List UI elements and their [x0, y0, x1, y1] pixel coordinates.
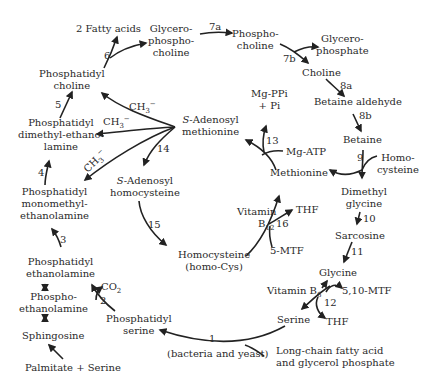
node-phosphatidylmonomethyl: Phosphatidyl monomethyl- ethanolamine — [20, 186, 89, 222]
node-bacteria-yeast: (bacteria and yeast) — [167, 348, 268, 360]
step-12: 12 — [324, 297, 337, 309]
node-line: Glycero- — [148, 23, 194, 35]
step-4: 4 — [38, 167, 44, 179]
step-6: 6 — [104, 50, 110, 62]
node-line: Homo- — [377, 152, 419, 164]
node-sarcosine: Sarcosine — [335, 230, 385, 242]
node-line: Phosphatidyl — [106, 313, 172, 325]
step-8b: 8b — [359, 110, 372, 122]
node-glycerophosphate: Glycero- phosphate — [316, 33, 369, 57]
node-line: Phospho- — [232, 28, 279, 40]
node-mg-ppi: Mg-PPi + Pi — [251, 88, 288, 112]
node-line: ethanolamine — [26, 268, 95, 280]
node-line: monomethyl- — [20, 198, 89, 210]
node-line: Vitamin — [237, 206, 276, 218]
node-palmitate-serine: Palmitate + Serine — [25, 362, 121, 374]
label-ch3-2: CH3− — [103, 113, 130, 132]
step-7b: 7b — [283, 53, 296, 65]
node-line: Long-chain fatty acid — [276, 345, 395, 357]
node-line: B12 — [237, 218, 276, 234]
node-line: phospho- — [148, 35, 194, 47]
step-14: 14 — [157, 143, 170, 155]
subscript: 3 — [145, 107, 149, 115]
node-5-mtf: 5-MTF — [270, 245, 304, 257]
step-8a: 8a — [340, 80, 352, 92]
node-homocysteine-center: Homocysteine (homo-Cys) — [178, 249, 250, 273]
node-sphingosine: Sphingosine — [22, 330, 84, 342]
node-line: serine — [106, 325, 172, 337]
node-line: phosphate — [316, 45, 369, 57]
node-glycerophosphocholine: Glycero- phospho- choline — [148, 23, 194, 59]
node-line: S-Adenosyl — [110, 175, 180, 187]
node-text: Vitamin B — [267, 285, 317, 296]
subscript: 6 — [317, 291, 321, 299]
step-15: 15 — [148, 219, 161, 231]
node-phosphatidylethanolamine: Phosphatidyl ethanolamine — [26, 256, 95, 280]
node-text: S — [117, 175, 124, 186]
node-line: Phosphatidyl — [39, 68, 105, 80]
node-line: S-Adenosyl — [182, 114, 239, 126]
node-fatty-acids: 2 Fatty acids — [76, 23, 141, 35]
step-9: 9 — [357, 152, 363, 164]
node-line: Phosphatidyl — [26, 256, 95, 268]
node-mg-atp: Mg-ATP — [286, 146, 326, 158]
node-text: CH — [103, 116, 119, 127]
node-methionine: Methionine — [270, 167, 328, 179]
subscript: 2 — [117, 287, 121, 295]
subscript: 12 — [265, 224, 274, 232]
step-7a: 7a — [209, 21, 221, 33]
node-betaine-aldehyde: Betaine aldehyde — [314, 96, 402, 108]
node-line: ethanolamine — [19, 303, 88, 315]
node-choline: Choline — [302, 67, 341, 79]
node-line: homocysteine — [110, 187, 180, 199]
node-vitamin-b12: Vitamin B12 — [237, 206, 276, 234]
node-line: ethanolamine — [20, 210, 89, 222]
node-line: dimethyl-ethano- — [18, 129, 104, 141]
node-line: Glycero- — [316, 33, 369, 45]
node-serine: Serine — [277, 314, 310, 326]
node-phosphoethanolamine: Phospho- ethanolamine — [19, 291, 88, 315]
node-phosphatidylserine: Phosphatidyl serine — [106, 313, 172, 337]
node-phosphocholine: Phospho- choline — [232, 28, 279, 52]
superscript: − — [150, 100, 156, 108]
node-vitamin-b6: Vitamin B6 — [267, 285, 321, 301]
node-line: Homocysteine — [178, 249, 250, 261]
node-line: glycine — [341, 198, 387, 210]
node-line: (homo-Cys) — [178, 261, 250, 273]
node-s-adenosylhomocysteine: S-Adenosyl homocysteine — [110, 175, 180, 199]
step-5: 5 — [55, 99, 61, 111]
node-line: choline — [232, 40, 279, 52]
node-text: CO — [101, 281, 117, 292]
node-5-10-mtf: 5,10-MTF — [342, 285, 392, 297]
node-glycine: Glycine — [319, 267, 357, 279]
node-phosphatidyldimethyl: Phosphatidyl dimethyl-ethano- lamine — [18, 117, 104, 153]
step-16: 16 — [276, 218, 289, 230]
label-ch3-1: CH3− — [129, 98, 156, 117]
node-line: Phosphatidyl — [20, 186, 89, 198]
node-line: choline — [39, 80, 105, 92]
node-phosphatidylcholine: Phosphatidyl choline — [39, 68, 105, 92]
node-line: cysteine — [377, 164, 419, 176]
node-text: -Adenosyl — [189, 114, 238, 125]
node-line: methionine — [182, 126, 239, 138]
node-co2: CO2 — [101, 281, 121, 297]
node-line: Mg-PPi — [251, 88, 288, 100]
node-line: and glycerol phosphate — [276, 357, 395, 369]
node-line: choline — [148, 47, 194, 59]
node-s-adenosylmethionine: S-Adenosyl methionine — [182, 114, 239, 138]
step-13: 13 — [266, 135, 279, 147]
step-10: 10 — [363, 213, 376, 225]
node-long-chain: Long-chain fatty acid and glycerol phosp… — [276, 345, 395, 369]
node-text: CH — [129, 101, 145, 112]
superscript: − — [124, 115, 130, 123]
node-betaine: Betaine — [343, 134, 382, 146]
node-text: -Adenosyl — [124, 175, 173, 186]
step-3: 3 — [60, 234, 66, 246]
step-11: 11 — [351, 246, 364, 258]
node-line: + Pi — [251, 100, 288, 112]
step-1: 1 — [209, 333, 215, 345]
node-line: Dimethyl — [341, 186, 387, 198]
node-line: Phosphatidyl — [18, 117, 104, 129]
node-line: Phospho- — [19, 291, 88, 303]
node-homocysteine-right: Homo- cysteine — [377, 152, 419, 176]
